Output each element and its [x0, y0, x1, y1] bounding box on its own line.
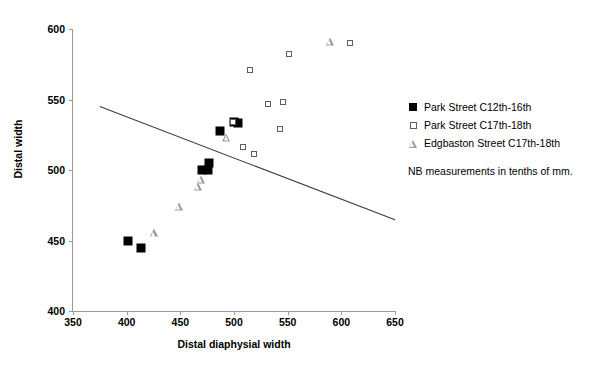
legend-note: NB measurements in tenths of mm. [408, 165, 592, 177]
x-axis-tick-label: 350 [64, 316, 82, 328]
x-axis-tick [127, 311, 128, 315]
chart-legend: Park Street C12th-16thPark Street C17th-… [408, 99, 592, 177]
open-triangle-icon [408, 137, 420, 149]
x-axis-tick [288, 311, 289, 315]
data-point-open-triangle [175, 202, 183, 210]
legend-item-label: Park Street C17th-18th [424, 119, 531, 131]
y-axis-tick-label: 600 [25, 23, 65, 35]
x-axis-tick [395, 311, 396, 315]
x-axis-tick-label: 650 [386, 316, 404, 328]
y-axis-title: Distal width [12, 109, 24, 189]
x-axis-tick-label: 500 [225, 316, 243, 328]
x-axis-tick-label: 550 [279, 316, 297, 328]
x-axis-tick [73, 311, 74, 315]
data-point-open-square [230, 119, 236, 125]
data-point-open-square [265, 101, 271, 107]
y-axis-tick-label: 550 [25, 94, 65, 106]
open-triangle-glyph [409, 140, 417, 148]
y-axis-tick-label: 500 [25, 164, 65, 176]
y-axis-tick [69, 311, 73, 312]
data-point-open-triangle [150, 229, 158, 237]
data-point-open-triangle [194, 183, 202, 191]
x-axis-title: Distal diaphysial width [73, 338, 395, 350]
y-axis-tick-label: 400 [25, 305, 65, 317]
filled-square-glyph [409, 103, 417, 111]
x-axis-tick-label: 400 [118, 316, 136, 328]
data-point-filled-square [205, 158, 214, 167]
y-axis-tick-label: 450 [25, 235, 65, 247]
data-point-open-square [280, 99, 286, 105]
data-point-filled-square [123, 236, 132, 245]
data-point-open-square [277, 126, 283, 132]
plot-area [73, 29, 395, 311]
data-point-open-square [251, 151, 257, 157]
data-point-open-square [240, 144, 246, 150]
x-axis-tick [180, 311, 181, 315]
legend-item: Park Street C12th-16th [408, 99, 592, 115]
legend-item-label: Park Street C12th-16th [424, 101, 531, 113]
legend-item: Edgbaston Street C17th-18th [408, 135, 592, 151]
legend-item-label: Edgbaston Street C17th-18th [424, 137, 560, 149]
filled-square-icon [408, 101, 420, 113]
open-square-glyph [410, 122, 417, 129]
data-point-open-triangle [326, 37, 334, 45]
open-square-icon [408, 119, 420, 131]
data-point-open-square [286, 51, 292, 57]
data-point-open-square [347, 40, 353, 46]
data-point-open-square [247, 67, 253, 73]
x-axis-tick-label: 450 [172, 316, 190, 328]
x-axis-tick [234, 311, 235, 315]
x-axis-tick-label: 600 [333, 316, 351, 328]
scatter-chart-figure: 350400450500550600650400450500550600 Dis… [0, 0, 596, 365]
x-axis-tick [341, 311, 342, 315]
legend-item: Park Street C17th-18th [408, 117, 592, 133]
data-point-open-triangle [197, 175, 205, 183]
data-point-filled-square [136, 243, 145, 252]
data-point-open-triangle [222, 133, 230, 141]
